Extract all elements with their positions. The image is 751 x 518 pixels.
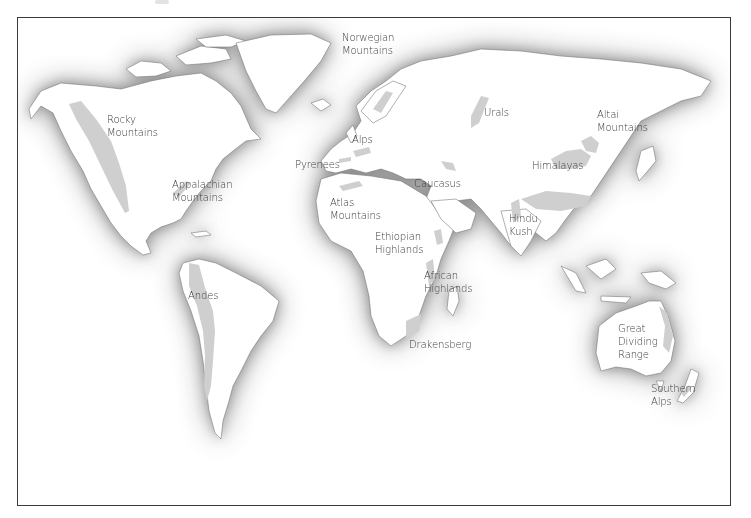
- map-frame: Rocky Mountains Appalachian Mountains An…: [17, 17, 731, 506]
- world-map: [18, 18, 731, 506]
- label-pyrenees: Pyrenees: [295, 158, 340, 171]
- label-drakensberg: Drakensberg: [409, 338, 471, 351]
- label-hindu-kush: Hindu Kush: [509, 212, 538, 238]
- label-altai-mountains: Altai Mountains: [597, 108, 648, 134]
- label-rocky-mountains: Rocky Mountains: [107, 113, 158, 139]
- label-alps: Alps: [352, 133, 373, 146]
- label-ethiopian-highlands: Ethiopian Highlands: [375, 230, 423, 256]
- label-african-highlands: African Highlands: [424, 269, 472, 295]
- label-andes: Andes: [188, 289, 218, 302]
- label-atlas-mountains: Atlas Mountains: [330, 196, 381, 222]
- label-great-dividing-range: Great Dividing Range: [618, 322, 658, 361]
- label-norwegian-mountains: Norwegian Mountains: [342, 31, 394, 57]
- label-himalayas: Himalayas: [532, 159, 583, 172]
- label-caucasus: Caucasus: [414, 177, 461, 190]
- label-urals: Urals: [484, 106, 509, 119]
- label-appalachian-mountains: Appalachian Mountains: [172, 178, 232, 204]
- page-edge-artifact: [155, 0, 169, 4]
- label-southern-alps: Southern Alps: [651, 382, 696, 408]
